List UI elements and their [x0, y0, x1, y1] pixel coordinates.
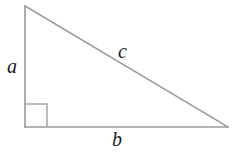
triangle-hypotenuse-c: [25, 6, 228, 127]
label-side-b: b: [112, 129, 122, 149]
right-angle-marker-icon: [25, 104, 47, 127]
right-triangle-figure: a c b: [0, 0, 239, 164]
label-side-c: c: [118, 41, 127, 61]
label-side-a: a: [7, 56, 17, 76]
